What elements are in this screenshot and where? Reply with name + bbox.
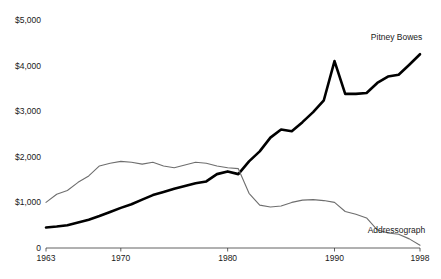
y-axis-tick-label: 0	[36, 243, 41, 253]
chart-canvas: $5,000$4,000$3,000$2,000$1,0000 19631970…	[0, 0, 441, 279]
x-axis-tick-label: 1980	[218, 253, 237, 263]
y-axis-tick-label: $2,000	[15, 152, 41, 162]
series-label-addressograph: Addressograph	[368, 225, 426, 235]
x-axis-tick-label: 1963	[37, 253, 56, 263]
x-axis-tick-label: 1970	[111, 253, 130, 263]
x-axis-tick-label: 1998	[411, 253, 430, 263]
y-axis-tick-label: $4,000	[15, 61, 41, 71]
series-line-pitney-bowes	[46, 54, 420, 227]
y-axis-tick-label: $1,000	[15, 197, 41, 207]
y-axis-tick-labels: $5,000$4,000$3,000$2,000$1,0000	[15, 15, 41, 253]
x-axis-tick-label: 1990	[325, 253, 344, 263]
series-lines	[46, 54, 420, 245]
y-axis-tick-label: $5,000	[15, 15, 41, 25]
y-axis-tick-label: $3,000	[15, 106, 41, 116]
series-label-pitney-bowes: Pitney Bowes	[371, 32, 423, 42]
x-axis-tick-marks	[46, 248, 420, 252]
series-inline-labels: Pitney BowesAddressograph	[368, 32, 426, 235]
x-axis-tick-labels: 19631970198019901998	[37, 253, 430, 263]
line-chart: $5,000$4,000$3,000$2,000$1,0000 19631970…	[0, 0, 441, 279]
